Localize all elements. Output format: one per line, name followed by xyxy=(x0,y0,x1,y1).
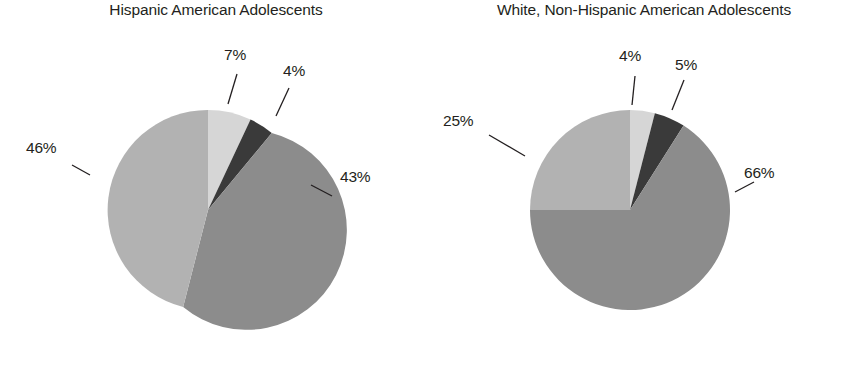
chart-panel-white-non-hispanic: White, Non-Hispanic American Adolescents… xyxy=(432,0,864,370)
pie-label-7: 7% xyxy=(224,46,246,64)
pie-white-non-hispanic xyxy=(432,0,864,370)
leader-line-25 xyxy=(489,135,525,156)
pie-label-43: 43% xyxy=(340,168,370,186)
leader-line-46 xyxy=(72,165,90,175)
pie-label-5: 5% xyxy=(675,56,697,74)
pie-label-25: 25% xyxy=(443,112,473,130)
pie-label-4: 4% xyxy=(283,62,305,80)
leader-line-5 xyxy=(672,80,684,110)
pie-label-4: 4% xyxy=(619,47,641,65)
pie-label-46: 46% xyxy=(26,139,56,157)
leader-line-4 xyxy=(632,76,635,105)
pie-chart-figure: Hispanic American Adolescents 7% 4% 43% … xyxy=(0,0,864,370)
pie-label-66: 66% xyxy=(744,164,774,182)
leader-line-66 xyxy=(735,182,754,192)
pie-slice-25 xyxy=(530,110,630,210)
leader-line-7 xyxy=(228,74,237,104)
leader-line-4 xyxy=(276,88,289,116)
chart-panel-hispanic: Hispanic American Adolescents 7% 4% 43% … xyxy=(0,0,432,370)
